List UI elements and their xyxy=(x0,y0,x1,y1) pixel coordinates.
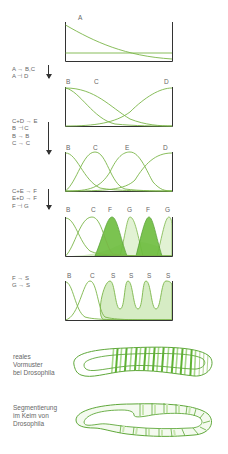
label-B: B xyxy=(67,272,71,280)
label-C: C xyxy=(94,78,99,86)
label-E: E xyxy=(125,144,129,152)
label-S: S xyxy=(166,272,170,280)
gradient-panel-1 xyxy=(65,22,173,62)
caption-prepattern: reales Vormuster bei Drosophila xyxy=(13,353,55,377)
label-A: A xyxy=(78,14,82,22)
label-G: G xyxy=(127,206,132,214)
label-S: S xyxy=(147,272,151,280)
label-D: D xyxy=(164,78,169,86)
arrow-down-icon xyxy=(48,65,49,78)
embryo-prepattern xyxy=(66,343,216,383)
rules-step-4: F → S G → S xyxy=(12,275,30,290)
label-G: G xyxy=(165,206,170,214)
gradient-panel-3 xyxy=(65,152,173,192)
label-B: B xyxy=(66,144,70,152)
label-D: D xyxy=(163,144,168,152)
caption-segmentation: Segmentierung im Keim von Drosophila xyxy=(13,404,57,428)
label-C: C xyxy=(93,144,98,152)
label-F: F xyxy=(108,206,112,214)
gradient-panel-4 xyxy=(65,217,173,257)
label-S: S xyxy=(111,272,115,280)
label-B: B xyxy=(66,206,70,214)
arrow-down-icon xyxy=(48,189,49,209)
label-F: F xyxy=(146,206,150,214)
rules-step-1: A → B,C A ⊣ D xyxy=(12,66,35,81)
embryo-segmentation xyxy=(72,400,217,442)
arrow-down-icon xyxy=(48,122,49,154)
label-C: C xyxy=(91,206,96,214)
rules-step-2: C+D → E B ⊣ C B → B C → C xyxy=(12,118,38,147)
label-C: C xyxy=(90,272,95,280)
gradient-panel-5 xyxy=(65,281,173,321)
rules-step-3: C+E → F E+D → F F ⊣ G xyxy=(12,188,37,210)
gradient-panel-2 xyxy=(65,87,173,127)
label-S: S xyxy=(129,272,133,280)
label-B: B xyxy=(66,78,70,86)
